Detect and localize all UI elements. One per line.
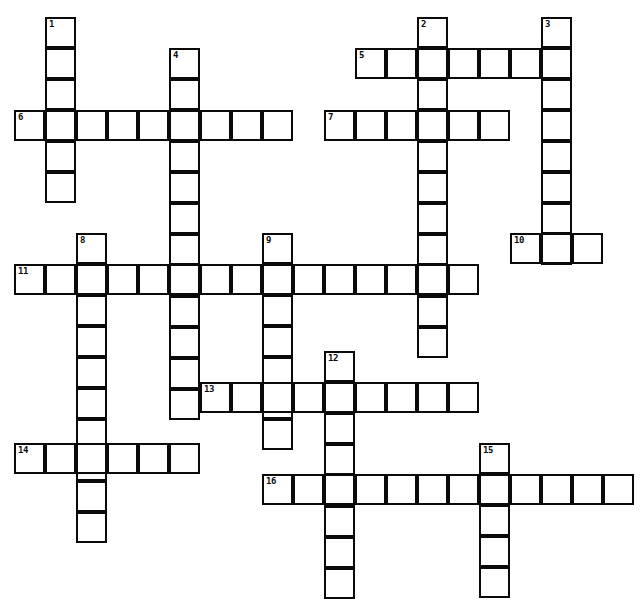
crossword-cell[interactable] — [231, 110, 262, 141]
crossword-cell[interactable] — [479, 567, 510, 598]
crossword-cell[interactable]: 5 — [355, 48, 386, 79]
crossword-cell[interactable] — [262, 382, 293, 413]
crossword-cell[interactable] — [169, 234, 200, 265]
crossword-cell[interactable] — [324, 413, 355, 444]
crossword-cell[interactable] — [169, 203, 200, 234]
crossword-cell[interactable] — [541, 172, 572, 203]
crossword-cell[interactable]: 10 — [510, 233, 541, 264]
crossword-cell[interactable] — [293, 264, 324, 295]
crossword-cell[interactable] — [324, 568, 355, 599]
crossword-cell[interactable] — [76, 264, 107, 295]
crossword-cell[interactable] — [45, 141, 76, 172]
crossword-cell[interactable] — [417, 79, 448, 110]
crossword-cell[interactable] — [448, 264, 479, 295]
crossword-cell[interactable] — [169, 110, 200, 141]
crossword-cell[interactable] — [76, 326, 107, 357]
crossword-cell[interactable]: 15 — [479, 443, 510, 474]
crossword-cell[interactable] — [386, 48, 417, 79]
crossword-cell[interactable] — [417, 327, 448, 358]
crossword-cell[interactable] — [355, 110, 386, 141]
crossword-cell[interactable] — [231, 382, 262, 413]
crossword-cell[interactable] — [448, 48, 479, 79]
crossword-cell[interactable] — [76, 481, 107, 512]
crossword-cell[interactable] — [45, 264, 76, 295]
crossword-cell[interactable] — [417, 296, 448, 327]
crossword-cell[interactable] — [417, 264, 448, 295]
crossword-cell[interactable] — [510, 474, 541, 505]
crossword-cell[interactable] — [572, 233, 603, 264]
crossword-cell[interactable] — [386, 474, 417, 505]
crossword-cell[interactable] — [200, 264, 231, 295]
crossword-cell[interactable] — [448, 110, 479, 141]
crossword-cell[interactable] — [417, 203, 448, 234]
crossword-cell[interactable] — [448, 474, 479, 505]
crossword-cell[interactable]: 13 — [200, 382, 231, 413]
crossword-cell[interactable] — [138, 443, 169, 474]
crossword-cell[interactable]: 3 — [541, 17, 572, 48]
crossword-cell[interactable] — [107, 443, 138, 474]
crossword-cell[interactable] — [479, 474, 510, 505]
crossword-cell[interactable] — [417, 141, 448, 172]
crossword-cell[interactable] — [76, 388, 107, 419]
crossword-cell[interactable] — [510, 48, 541, 79]
crossword-cell[interactable] — [169, 141, 200, 172]
crossword-cell[interactable] — [45, 48, 76, 79]
crossword-cell[interactable] — [262, 295, 293, 326]
crossword-cell[interactable]: 9 — [262, 233, 293, 264]
crossword-cell[interactable] — [293, 474, 324, 505]
crossword-cell[interactable] — [169, 443, 200, 474]
crossword-cell[interactable] — [386, 382, 417, 413]
crossword-cell[interactable] — [324, 382, 355, 413]
crossword-cell[interactable] — [324, 537, 355, 568]
crossword-cell[interactable] — [45, 172, 76, 203]
crossword-cell[interactable] — [479, 536, 510, 567]
crossword-cell[interactable]: 4 — [169, 48, 200, 79]
crossword-cell[interactable] — [417, 382, 448, 413]
crossword-cell[interactable] — [200, 110, 231, 141]
crossword-cell[interactable] — [479, 48, 510, 79]
crossword-cell[interactable] — [169, 79, 200, 110]
crossword-cell[interactable] — [169, 389, 200, 420]
crossword-cell[interactable] — [107, 110, 138, 141]
crossword-cell[interactable] — [76, 443, 107, 474]
crossword-cell[interactable] — [262, 264, 293, 295]
crossword-cell[interactable] — [603, 474, 634, 505]
crossword-cell[interactable] — [45, 443, 76, 474]
crossword-cell[interactable] — [355, 382, 386, 413]
crossword-cell[interactable] — [76, 512, 107, 543]
crossword-cell[interactable]: 8 — [76, 233, 107, 264]
crossword-cell[interactable] — [169, 358, 200, 389]
crossword-cell[interactable]: 2 — [417, 17, 448, 48]
crossword-cell[interactable] — [324, 506, 355, 537]
crossword-cell[interactable] — [107, 264, 138, 295]
crossword-cell[interactable] — [417, 234, 448, 265]
crossword-cell[interactable] — [76, 110, 107, 141]
crossword-cell[interactable] — [138, 110, 169, 141]
crossword-cell[interactable] — [479, 110, 510, 141]
crossword-cell[interactable] — [262, 110, 293, 141]
crossword-cell[interactable] — [417, 474, 448, 505]
crossword-cell[interactable]: 6 — [14, 110, 45, 141]
crossword-cell[interactable] — [417, 110, 448, 141]
crossword-cell[interactable] — [541, 141, 572, 172]
crossword-cell[interactable]: 7 — [324, 110, 355, 141]
crossword-cell[interactable] — [417, 172, 448, 203]
crossword-cell[interactable] — [169, 327, 200, 358]
crossword-cell[interactable] — [541, 48, 572, 79]
crossword-cell[interactable] — [355, 474, 386, 505]
crossword-cell[interactable] — [293, 382, 324, 413]
crossword-cell[interactable] — [45, 110, 76, 141]
crossword-cell[interactable] — [541, 203, 572, 234]
crossword-cell[interactable] — [541, 233, 572, 264]
crossword-cell[interactable] — [324, 474, 355, 505]
crossword-cell[interactable]: 14 — [14, 443, 45, 474]
crossword-cell[interactable] — [169, 172, 200, 203]
crossword-cell[interactable] — [448, 382, 479, 413]
crossword-cell[interactable] — [541, 79, 572, 110]
crossword-cell[interactable] — [324, 444, 355, 475]
crossword-cell[interactable] — [76, 295, 107, 326]
crossword-cell[interactable] — [231, 264, 262, 295]
crossword-cell[interactable] — [324, 264, 355, 295]
crossword-cell[interactable]: 12 — [324, 351, 355, 382]
crossword-cell[interactable] — [572, 474, 603, 505]
